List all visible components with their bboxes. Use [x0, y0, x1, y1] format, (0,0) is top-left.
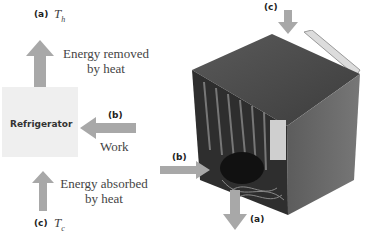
hot-reservoir-symbol: Th: [54, 6, 65, 27]
cold-reservoir-tag: (c): [34, 218, 48, 228]
down-arrow-a-icon: [223, 190, 247, 230]
refrigerator-label: Refrigerator: [10, 119, 72, 129]
up-arrow-top-icon: [26, 40, 54, 88]
refrigerator-photo: [192, 30, 362, 215]
right-arrow-b-icon: [160, 161, 210, 179]
temp-subscript: h: [61, 15, 65, 24]
cold-temp-subscript: c: [61, 224, 65, 233]
photo-label-c: (c): [264, 2, 278, 12]
cold-reservoir-symbol: Tc: [54, 215, 65, 236]
left-arrow-work-icon: [80, 117, 136, 139]
energy-removed-line2: by heat: [60, 61, 152, 76]
energy-absorbed-line2: by heat: [54, 191, 154, 206]
work-label: Work: [100, 139, 129, 154]
hot-reservoir-tag: (a): [34, 9, 48, 19]
up-arrow-bottom-icon: [32, 171, 54, 211]
energy-absorbed-label: Energy absorbed by heat: [54, 176, 154, 206]
energy-removed-line1: Energy removed: [60, 46, 152, 61]
energy-absorbed-line1: Energy absorbed: [54, 176, 154, 191]
energy-removed-label: Energy removed by heat: [60, 46, 152, 76]
photo-label-a: (a): [250, 214, 264, 224]
